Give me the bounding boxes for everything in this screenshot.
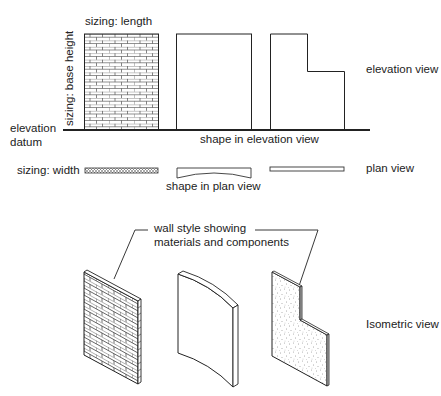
label-shape-in-elevation: shape in elevation view bbox=[200, 133, 319, 146]
elevation-stepped-wall bbox=[271, 34, 345, 130]
elevation-plain-wall bbox=[177, 34, 252, 130]
label-plan-view: plan view bbox=[366, 162, 414, 175]
isometric-stepped-wall bbox=[272, 271, 329, 386]
label-elevation-datum-2: datum bbox=[10, 136, 42, 149]
label-isometric-view: Isometric view bbox=[366, 318, 439, 331]
isometric-curved-wall bbox=[178, 271, 238, 387]
plan-brick-wall bbox=[85, 168, 158, 173]
leader-line-left bbox=[114, 230, 148, 279]
label-elevation-datum-1: elevation bbox=[10, 122, 56, 135]
label-sizing-length: sizing: length bbox=[85, 15, 152, 28]
elevation-brick-wall bbox=[85, 34, 159, 130]
label-elevation-view: elevation view bbox=[366, 63, 438, 76]
label-sizing-width: sizing: width bbox=[17, 164, 80, 177]
plan-thin-wall bbox=[270, 167, 344, 171]
label-wall-style-2: materials and components bbox=[154, 236, 289, 249]
label-wall-style-1: wall style showing bbox=[154, 222, 246, 235]
label-sizing-base-height: sizing: base height bbox=[63, 31, 75, 126]
isometric-brick-wall bbox=[84, 270, 141, 384]
plan-curved-wall bbox=[177, 168, 251, 178]
label-shape-in-plan: shape in plan view bbox=[166, 180, 261, 193]
